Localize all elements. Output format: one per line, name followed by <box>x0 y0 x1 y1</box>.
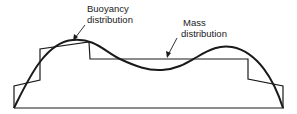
mass-distribution-line <box>14 42 283 108</box>
mass-label-line1: Mass <box>183 17 206 28</box>
mass-arrowhead-icon <box>166 51 171 58</box>
mass-label-line2: distribution <box>181 28 227 39</box>
distribution-diagram: Buoyancy distribution Mass distribution <box>0 0 297 114</box>
buoyancy-label-line2: distribution <box>87 14 133 25</box>
buoyancy-distribution-curve <box>14 40 283 108</box>
buoyancy-label-line1: Buoyancy <box>87 3 129 14</box>
